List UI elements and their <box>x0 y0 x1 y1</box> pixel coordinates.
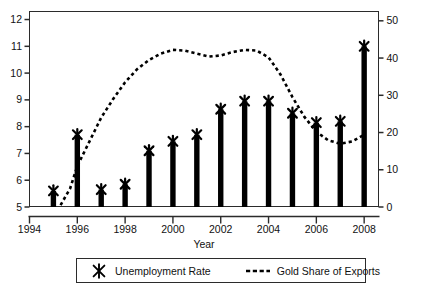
x-axis-tick-label: 1994 <box>6 224 54 235</box>
x-axis-tick-label: 1996 <box>53 224 101 235</box>
left-axis-tick-label: 11 <box>2 41 22 52</box>
x-marker-icon <box>336 116 345 127</box>
left-axis-tick-label: 5 <box>2 202 22 213</box>
legend-item-unemployment-rate: Unemployment Rate <box>77 259 211 282</box>
x-marker-icon <box>288 108 297 119</box>
x-marker-icon <box>145 145 154 156</box>
left-axis-tick-label: 10 <box>2 68 22 79</box>
x-marker-icon <box>264 96 273 107</box>
x-marker-icon <box>360 41 369 52</box>
x-marker-icon <box>121 179 130 190</box>
x-marker-icon <box>97 184 106 195</box>
bar <box>361 46 366 207</box>
x-axis-tick-label: 2002 <box>197 224 245 235</box>
right-axis-tick-label: 0 <box>387 202 411 213</box>
x-marker-icon <box>312 117 321 128</box>
bar <box>338 121 343 207</box>
x-axis-tick-label: 2004 <box>245 224 293 235</box>
bar <box>242 101 247 207</box>
x-axis-title: Year <box>164 238 244 250</box>
left-axis-tick-label: 7 <box>2 148 22 159</box>
legend-label-unemployment-rate: Unemployment Rate <box>115 265 211 277</box>
chart-legend: Unemployment Rate Gold Share of Exports <box>76 258 366 283</box>
right-axis-tick-label: 10 <box>387 164 411 175</box>
x-axis-tick-label: 2006 <box>292 224 340 235</box>
bar <box>266 101 271 207</box>
legend-item-gold-share: Gold Share of Exports <box>211 259 380 282</box>
x-marker-icon <box>169 136 178 147</box>
bar <box>314 123 319 207</box>
x-axis-tick-label: 2008 <box>340 224 388 235</box>
bar <box>290 113 295 207</box>
right-axis-tick-label: 50 <box>387 15 411 26</box>
left-axis-tick-label: 8 <box>2 121 22 132</box>
dashed-line-icon <box>245 261 271 281</box>
x-marker-icon <box>49 185 58 196</box>
right-axis-tick-label: 40 <box>387 53 411 64</box>
legend-label-gold-share: Gold Share of Exports <box>277 265 380 277</box>
right-axis-tick-label: 20 <box>387 127 411 138</box>
chart-root: 56789101112 01020304050 1994199619982000… <box>0 0 438 293</box>
x-marker-icon <box>192 129 201 140</box>
bar <box>170 141 175 207</box>
x-axis-tick-label: 1998 <box>101 224 149 235</box>
x-marker-icon <box>89 261 109 281</box>
bar <box>146 151 151 207</box>
left-axis-tick-label: 12 <box>2 14 22 25</box>
bar <box>218 109 223 207</box>
bar <box>194 135 199 207</box>
right-axis-tick-label: 30 <box>387 90 411 101</box>
left-axis-tick-label: 6 <box>2 175 22 186</box>
x-axis-tick-label: 2000 <box>149 224 197 235</box>
bar <box>75 135 80 207</box>
x-marker-icon <box>240 96 249 107</box>
left-axis-tick-label: 9 <box>2 94 22 105</box>
x-marker-icon <box>73 129 82 140</box>
x-marker-icon <box>216 104 225 115</box>
